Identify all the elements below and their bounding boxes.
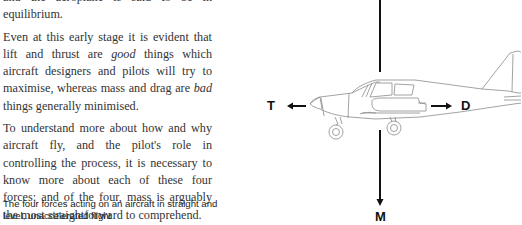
paragraph-text: things generally minimised.	[3, 99, 139, 113]
drag-arrow	[431, 103, 452, 110]
aircraft-forces-figure	[260, 0, 522, 225]
aircraft-outline	[310, 51, 521, 139]
drag-label: D	[461, 98, 470, 113]
emphasis-good: good	[111, 47, 135, 61]
body-text-column: and the aeroplane is said to be in equil…	[3, 0, 212, 225]
thrust-label: T	[267, 98, 275, 113]
cut-off-text-line: and the aeroplane is said to be in equil…	[3, 0, 212, 24]
paragraph-forces-good-bad: Even at this early stage it is evident t…	[3, 29, 212, 115]
mass-arrow	[377, 130, 384, 206]
four-forces-diagram: T D M	[260, 0, 522, 225]
figure-caption: The four forces acting on an aircraft in…	[3, 198, 218, 222]
thrust-arrow	[287, 103, 306, 110]
mass-label: M	[375, 209, 386, 224]
emphasis-bad: bad	[194, 81, 212, 95]
